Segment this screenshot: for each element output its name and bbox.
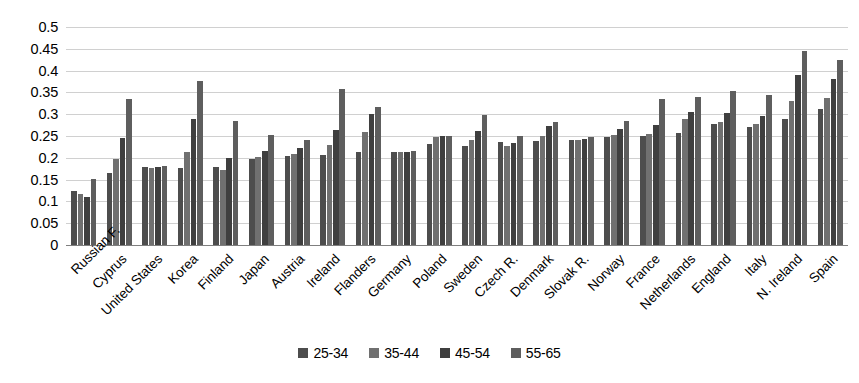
bar-group (66, 27, 102, 245)
bar (760, 116, 766, 245)
bar (504, 146, 510, 245)
y-axis-tick: 0.1 (38, 193, 58, 209)
bar (197, 81, 203, 245)
bar (582, 139, 588, 245)
bar (268, 135, 274, 245)
bar (659, 99, 665, 245)
bar (695, 97, 701, 245)
legend-swatch-icon (369, 348, 379, 358)
y-axis-tick: 0.3 (38, 106, 58, 122)
legend-label: 35-44 (384, 345, 419, 361)
bar (213, 167, 219, 245)
bar (155, 167, 161, 245)
legend-label: 45-54 (455, 345, 490, 361)
bar (711, 124, 717, 245)
y-axis-tick: 0.45 (31, 41, 58, 57)
bar (255, 157, 261, 246)
bar (462, 146, 468, 245)
chart-legend: 25-3435-4445-5455-65 (0, 345, 859, 361)
y-axis-tick: 0 (50, 237, 58, 253)
bar (575, 140, 581, 245)
legend-item[interactable]: 25-34 (298, 345, 348, 361)
bar (766, 95, 772, 245)
bar-group (599, 27, 635, 245)
legend-swatch-icon (298, 348, 308, 358)
bar (517, 136, 523, 245)
bars-layer (66, 27, 848, 245)
bar (624, 121, 630, 245)
bar (126, 99, 132, 245)
bar (640, 136, 646, 245)
legend-label: 25-34 (313, 345, 348, 361)
legend-item[interactable]: 45-54 (440, 345, 490, 361)
bar (482, 115, 488, 245)
bar (730, 91, 736, 245)
bar (718, 122, 724, 245)
y-axis-tick: 0.15 (31, 172, 58, 188)
bar-group (812, 27, 848, 245)
bar (362, 132, 368, 245)
bar-group (208, 27, 244, 245)
bar (831, 79, 837, 245)
bar-group (102, 27, 138, 245)
bar-group (528, 27, 564, 245)
y-axis: 0.50.450.40.350.30.250.20.150.10.050 (0, 20, 64, 252)
bar (356, 152, 362, 245)
bar-group (386, 27, 422, 245)
bar (475, 131, 481, 245)
bar (120, 138, 126, 245)
bar (149, 168, 155, 245)
bar (795, 75, 801, 245)
bar (446, 136, 452, 245)
bar (653, 125, 659, 245)
x-axis-labels: Russian F.CyprusUnited StatesKoreaFinlan… (66, 247, 848, 337)
bar (333, 130, 339, 245)
bar-group (741, 27, 777, 245)
bar (511, 143, 517, 245)
bar (291, 154, 297, 245)
legend-item[interactable]: 35-44 (369, 345, 419, 361)
bar (604, 137, 610, 245)
bar-chart: 0.50.450.40.350.30.250.20.150.10.050 Rus… (0, 0, 859, 383)
bar (71, 191, 77, 246)
bar (327, 145, 333, 245)
x-axis-label: Russian F. (68, 251, 94, 277)
bar (611, 135, 617, 245)
bar (178, 168, 184, 245)
bar (802, 51, 808, 245)
bar (304, 140, 310, 246)
bar-group (670, 27, 706, 245)
bar (747, 127, 753, 245)
bar (540, 136, 546, 245)
bar (617, 129, 623, 245)
bar (78, 194, 84, 245)
bar (320, 155, 326, 245)
bar-group (244, 27, 280, 245)
bar (469, 140, 475, 245)
bar (818, 109, 824, 245)
bar (789, 101, 795, 245)
bar (440, 136, 446, 245)
bar (782, 119, 788, 245)
bar (433, 137, 439, 245)
legend-item[interactable]: 55-65 (511, 345, 561, 361)
legend-swatch-icon (511, 348, 521, 358)
bar (682, 119, 688, 245)
bar (588, 137, 594, 245)
bar (404, 152, 410, 245)
bar (226, 158, 232, 245)
y-axis-tick: 0.05 (31, 215, 58, 231)
bar (233, 121, 239, 245)
bar (184, 152, 190, 245)
bar (375, 107, 381, 245)
bar (688, 112, 694, 245)
bar-group (457, 27, 493, 245)
y-axis-tick: 0.25 (31, 128, 58, 144)
bar-group (315, 27, 351, 245)
bar (646, 134, 652, 245)
bar-group (635, 27, 671, 245)
bar-group (493, 27, 529, 245)
bar (262, 151, 268, 245)
plot-area (66, 27, 848, 246)
bar-group (173, 27, 209, 245)
